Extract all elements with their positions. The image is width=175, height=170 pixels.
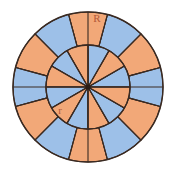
circle-sector-diagram: Rr (0, 0, 175, 170)
figure-canvas: Rr (0, 0, 175, 170)
center-point-dot (85, 84, 90, 89)
outer-radius-label: R (93, 12, 101, 24)
inner-radius-label: r (58, 104, 62, 116)
